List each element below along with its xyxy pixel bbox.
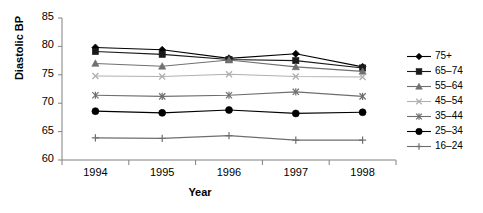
marker-circle <box>159 109 166 116</box>
legend-item[interactable]: 35–44 <box>406 108 482 123</box>
series-4554 <box>92 71 365 80</box>
legend-marker-sample <box>406 64 432 77</box>
legend-label: 55–64 <box>435 80 463 91</box>
marker-circle <box>292 110 299 117</box>
marker-circle <box>359 109 366 116</box>
legend-label: 65–74 <box>435 65 463 76</box>
legend-marker-sample <box>406 94 432 107</box>
marker-diamond <box>416 53 423 60</box>
line-chart: Diastolic BP Year 606570758085 199419951… <box>0 0 483 213</box>
legend-marker-sample <box>406 124 432 137</box>
legend-label: 35–44 <box>435 110 463 121</box>
series-1624 <box>92 132 366 144</box>
marker-circle <box>92 108 99 115</box>
legend-sample-svg <box>406 50 432 63</box>
series-2534 <box>92 107 366 117</box>
legend-marker-sample <box>406 139 432 152</box>
legend-marker-sample <box>406 79 432 92</box>
legend-item[interactable]: 65–74 <box>406 63 482 78</box>
marker-diamond <box>292 50 299 57</box>
legend-item[interactable]: 55–64 <box>406 78 482 93</box>
legend-item[interactable]: 16–24 <box>406 138 482 153</box>
legend-sample-svg <box>406 140 432 153</box>
chart-legend: 75+65–7455–6445–5435–4425–3416–24 <box>406 48 482 153</box>
marker-square <box>92 48 98 54</box>
legend-marker-sample <box>406 49 432 62</box>
marker-square <box>416 69 422 75</box>
legend-label: 25–34 <box>435 125 463 136</box>
series-3544 <box>92 88 365 100</box>
legend-label: 45–54 <box>435 95 463 106</box>
legend-marker-sample <box>406 109 432 122</box>
marker-circle <box>226 107 233 114</box>
legend-item[interactable]: 45–54 <box>406 93 482 108</box>
marker-circle <box>416 128 422 134</box>
legend-item[interactable]: 75+ <box>406 48 482 63</box>
marker-square <box>159 51 165 57</box>
legend-sample-svg <box>406 65 432 78</box>
legend-sample-svg <box>406 125 432 138</box>
legend-label: 75+ <box>435 50 452 61</box>
legend-label: 16–24 <box>435 140 463 151</box>
legend-item[interactable]: 25–34 <box>406 123 482 138</box>
legend-sample-svg <box>406 80 432 93</box>
legend-sample-svg <box>406 110 432 123</box>
legend-sample-svg <box>406 95 432 108</box>
